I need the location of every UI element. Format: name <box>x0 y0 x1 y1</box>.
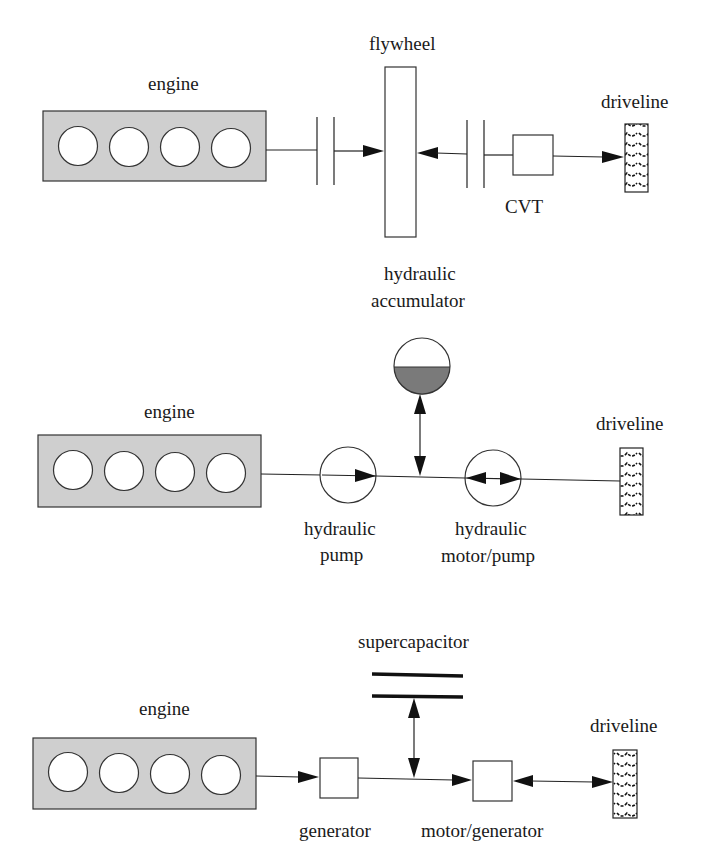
shaft-line <box>531 781 594 782</box>
supercapacitor-icon <box>372 674 463 697</box>
flywheel-icon <box>385 67 416 237</box>
engine-block <box>43 111 266 181</box>
pump-label-line1: hydraulic <box>304 518 376 539</box>
driveline-wheel-icon <box>620 448 643 515</box>
hydraulic-motor-pump-icon <box>465 450 521 506</box>
hybrid-powertrain-diagram: engine flywheel CVT driveline <box>0 0 712 864</box>
panel-flywheel-system: engine flywheel CVT driveline <box>43 33 669 237</box>
shaft-line <box>261 474 322 475</box>
engine-label: engine <box>148 73 199 94</box>
arrow-down-icon <box>414 456 426 476</box>
driveline-wheel-icon <box>625 124 648 192</box>
arrow-up-icon <box>414 394 426 414</box>
flywheel-label: flywheel <box>369 33 435 54</box>
arrow-right-icon <box>592 776 613 788</box>
shaft-line <box>553 156 604 157</box>
supercapacitor-label: supercapacitor <box>358 631 469 652</box>
shaft-line <box>521 479 620 481</box>
arrow-right-icon <box>298 771 319 783</box>
accumulator-label-line2: accumulator <box>371 290 466 311</box>
engine-cylinder <box>59 127 98 166</box>
engine-cylinder <box>49 753 88 792</box>
arrow-right-icon <box>363 145 384 157</box>
generator-box <box>320 758 358 798</box>
engine-cylinder <box>54 451 93 490</box>
motor-pump-label-line2: motor/pump <box>441 545 535 566</box>
generator-label: generator <box>299 820 371 841</box>
panel-hydraulic-system: engine hydraulic pump hydraulic accumula… <box>38 263 664 566</box>
accumulator-label-line1: hydraulic <box>384 263 456 284</box>
hydraulic-pump-icon <box>320 447 376 503</box>
shaft-line <box>256 776 300 777</box>
clutch-1-icon <box>317 117 334 185</box>
panel-electric-system: engine generator supercapacitor motor/ge… <box>33 631 658 841</box>
arrow-up-icon <box>408 698 420 718</box>
driveline-wheel-icon <box>613 750 637 818</box>
engine-cylinder <box>105 452 144 491</box>
driveline-label: driveline <box>596 413 664 434</box>
motor-pump-label-line1: hydraulic <box>455 518 527 539</box>
engine-block <box>33 738 256 809</box>
electric-line <box>358 778 454 780</box>
driveline-label: driveline <box>601 91 669 112</box>
shaft-line <box>436 153 467 154</box>
motor-generator-box <box>473 761 512 801</box>
engine-label: engine <box>144 401 195 422</box>
arrow-right-icon <box>602 151 624 163</box>
engine-cylinder <box>202 756 241 795</box>
driveline-label: driveline <box>590 715 658 736</box>
engine-cylinder <box>110 128 149 167</box>
clutch-2-icon <box>467 120 484 188</box>
arrow-left-icon <box>417 147 438 159</box>
engine-block <box>38 435 261 507</box>
arrow-down-icon <box>408 758 420 778</box>
engine-cylinder <box>212 129 251 168</box>
hydraulic-accumulator-icon <box>394 338 450 395</box>
engine-cylinder <box>156 453 195 492</box>
pump-label-line2: pump <box>320 544 363 565</box>
engine-cylinder <box>100 754 139 793</box>
hydraulic-line <box>376 476 465 478</box>
engine-label: engine <box>139 698 190 719</box>
engine-cylinder <box>151 755 190 794</box>
arrow-right-icon <box>452 774 472 786</box>
motor-generator-label: motor/generator <box>421 820 544 841</box>
engine-cylinder <box>161 128 200 167</box>
cvt-box <box>513 135 553 175</box>
engine-cylinder <box>207 454 246 493</box>
arrow-left-icon <box>513 775 533 787</box>
cvt-label: CVT <box>505 196 543 217</box>
